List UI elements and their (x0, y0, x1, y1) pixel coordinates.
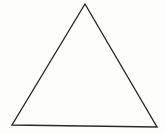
triangle-shape (12, 4, 157, 127)
triangle-svg (0, 0, 165, 134)
figure-canvas (0, 0, 165, 134)
